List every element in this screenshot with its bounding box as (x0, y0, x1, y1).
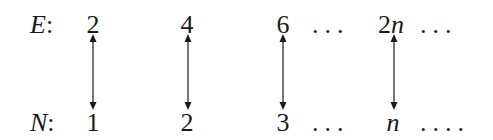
bijection-arrows (0, 0, 493, 140)
